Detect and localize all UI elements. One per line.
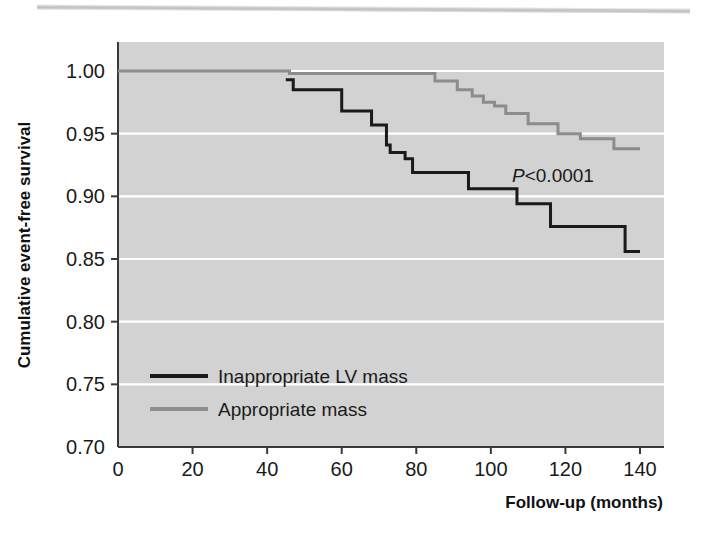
x-tick-label: 60 xyxy=(331,458,353,480)
x-tick-label: 0 xyxy=(112,458,123,480)
x-tick-label: 140 xyxy=(623,458,656,480)
y-tick-label: 1.00 xyxy=(66,60,105,82)
y-axis xyxy=(111,42,118,447)
y-axis-title: Cumulative event-free survival xyxy=(15,122,34,369)
y-tick-label: 0.90 xyxy=(66,185,105,207)
y-tick-labels: 0.700.750.800.850.900.951.00 xyxy=(66,60,105,458)
x-tick-label: 40 xyxy=(256,458,278,480)
y-tick-label: 0.95 xyxy=(66,123,105,145)
legend-label-inappropriate-lv-mass: Inappropriate LV mass xyxy=(218,366,408,387)
x-tick-label: 20 xyxy=(181,458,203,480)
figure-container: 0.700.750.800.850.900.951.00 02040608010… xyxy=(0,0,701,537)
legend-label-appropriate-mass: Appropriate mass xyxy=(218,399,367,420)
x-tick-label: 80 xyxy=(405,458,427,480)
x-axis xyxy=(118,447,664,454)
survival-chart: 0.700.750.800.850.900.951.00 02040608010… xyxy=(0,0,701,537)
y-tick-label: 0.70 xyxy=(66,436,105,458)
p-value-annotation: P<0.0001 xyxy=(512,165,594,186)
x-tick-labels: 020406080100120140 xyxy=(112,458,656,480)
y-tick-label: 0.80 xyxy=(66,311,105,333)
y-tick-label: 0.75 xyxy=(66,373,105,395)
x-axis-title: Follow-up (months) xyxy=(505,493,663,512)
x-tick-label: 120 xyxy=(549,458,582,480)
x-tick-label: 100 xyxy=(474,458,507,480)
y-tick-label: 0.85 xyxy=(66,248,105,270)
